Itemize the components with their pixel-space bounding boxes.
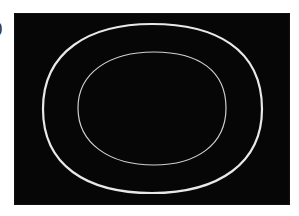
photograph [14,13,290,205]
figure: ) [0,0,299,216]
inner-ring [78,52,226,165]
rings-drawing [14,13,290,205]
panel-label: ) [0,20,2,36]
outer-ring [43,24,262,193]
